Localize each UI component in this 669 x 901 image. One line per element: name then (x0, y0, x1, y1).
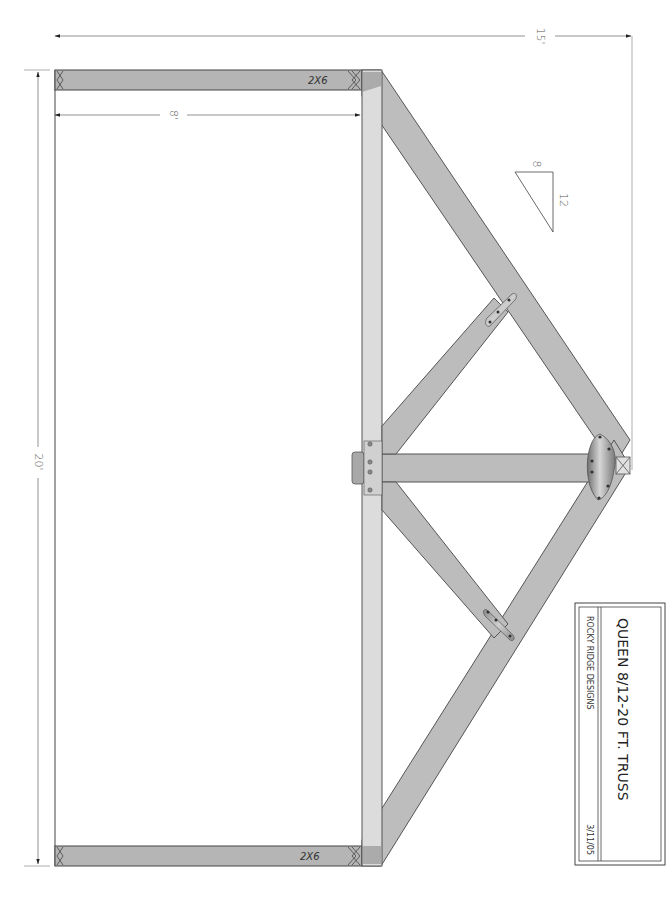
truss-drawing: 15' 8' 20' 2X6 2X6 (0, 0, 669, 901)
bottom-tail-label: 2X6 (300, 851, 320, 862)
center-gusset (352, 441, 382, 495)
drawing-date: 3/11/05 (585, 824, 594, 855)
dimension-height-15ft: 15' (55, 27, 632, 470)
top-tail-label: 2X6 (308, 75, 328, 86)
king-post (382, 454, 594, 482)
bottom-tail-2x6: 2X6 (55, 846, 362, 866)
dimension-span-20ft: 20' (24, 70, 50, 866)
dim-label-15ft: 15' (534, 27, 547, 44)
pitch-rise: 8 (530, 161, 543, 168)
pitch-indicator: 8 12 (515, 161, 570, 233)
dimension-overhang-8ft: 8' (55, 110, 360, 120)
title-block: QUEEN 8/12-20 FT. TRUSS ROCKY RIDGE DESI… (575, 603, 665, 865)
drawing-title: QUEEN 8/12-20 FT. TRUSS (615, 618, 631, 801)
ridge-block (616, 457, 630, 474)
dim-label-20ft: 20' (32, 453, 45, 470)
company-name: ROCKY RIDGE DESIGNS (585, 616, 594, 710)
heel-joint-bottom (362, 846, 381, 864)
pitch-run: 12 (557, 193, 570, 207)
dim-label-8ft: 8' (167, 110, 180, 120)
top-tail-2x6: 2X6 (55, 70, 362, 90)
